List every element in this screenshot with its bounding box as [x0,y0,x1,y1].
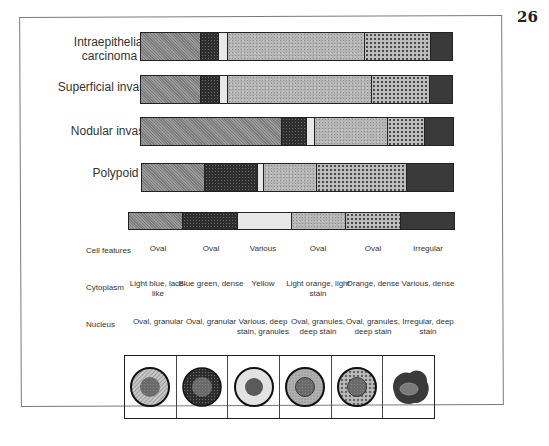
bar-segment-white [218,33,227,60]
cell-illustration [227,356,279,418]
bar-segment-black [406,164,453,191]
stage-bar [140,117,454,146]
figure-frame [19,15,504,407]
stage-bar [140,75,453,104]
table-cell-cell-features: Irregular [395,244,461,254]
legend-segment-dotted [345,213,399,229]
cell-white-icon [229,362,279,412]
bar-segment-black [430,33,452,60]
bar-segment-dotted [387,118,424,145]
bar-segment-granular-grey [141,33,200,60]
page-number: 26 [517,8,538,26]
bar-segment-dotted [364,33,430,60]
cell-light-hatched-icon [125,362,175,412]
bar-segment-dark-stipple [200,33,218,60]
bar-segment-granular-grey [141,118,281,145]
bar-segment-dotted [316,164,405,191]
bar-segment-light-grey [314,118,387,145]
legend-segment-white [237,213,291,229]
table-cell-cytoplasm: Various, dense [395,279,461,289]
row-label-cytoplasm: Cytoplasm [86,283,124,292]
bar-segment-granular-grey [141,76,200,103]
bar-segment-white [219,76,227,103]
bar-segment-black [424,118,453,145]
legend-segment-light-grey [291,213,345,229]
bar-segment-light-grey [263,164,316,191]
bar-segment-light-grey [227,76,372,103]
bar-segment-dotted [371,76,429,103]
cell-dotted-icon [332,362,382,412]
row-label-nucleus: Nucleus [86,320,115,329]
cell-illustration [279,356,331,418]
cell-dark-stippled-icon [177,362,227,412]
bar-segment-granular-grey [142,164,204,191]
stage-bar [141,163,454,192]
table-cell-nucleus: Irregular, deep stain [395,317,461,337]
bar-segment-dark-stipple [281,118,306,145]
cell-illustration [382,356,434,418]
legend-segment-dark-stipple [182,213,236,229]
legend-segment-black [400,213,454,229]
bar-segment-white [306,118,314,145]
bar-segment-dark-stipple [200,76,219,103]
cell-illustration [125,356,176,418]
cell-light-grey-icon [280,362,330,412]
cell-illustrations [124,355,435,419]
bar-segment-light-grey [227,33,364,60]
cell-irregular-dark-icon [384,362,434,412]
bar-segment-dark-stipple [204,164,257,191]
legend-segment-granular-grey [129,213,182,229]
cell-illustration [331,356,383,418]
legend-bar [128,212,455,230]
stage-bar [140,32,453,61]
cell-illustration [176,356,228,418]
bar-segment-black [429,76,452,103]
